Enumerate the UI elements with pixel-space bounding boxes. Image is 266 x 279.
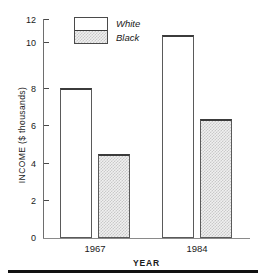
y-tick-label-2: 2 bbox=[14, 196, 36, 206]
bar-1984-black bbox=[200, 119, 232, 238]
legend-swatch-white bbox=[75, 18, 107, 31]
plot-area bbox=[43, 19, 250, 238]
legend-label-white: White bbox=[116, 18, 140, 29]
legend-label-black: Black bbox=[116, 32, 139, 43]
y-tick-label-6: 6 bbox=[14, 121, 36, 131]
x-axis-title: YEAR bbox=[43, 258, 250, 268]
y-tick-label-8: 8 bbox=[14, 84, 36, 94]
x-tick-label-1984: 1984 bbox=[167, 243, 227, 254]
y-tick-label-10: 10 bbox=[14, 38, 36, 48]
y-tick-label-4: 4 bbox=[14, 159, 36, 169]
legend-swatch-black bbox=[75, 31, 107, 44]
y-tick-label-0: 0 bbox=[14, 233, 36, 243]
bottom-rule bbox=[8, 270, 258, 273]
legend-swatch-box bbox=[74, 17, 108, 44]
bar-1967-black bbox=[98, 154, 130, 238]
bar-1984-white bbox=[162, 35, 194, 238]
x-axis-line bbox=[43, 238, 250, 239]
y-axis-title: INCOME ($ thousands) bbox=[17, 55, 27, 215]
bar-chart-figure: INCOME ($ thousands) 12 10 8 6 4 2 0 196… bbox=[0, 0, 266, 279]
y-tick-label-12: 12 bbox=[14, 15, 36, 25]
x-tick-label-1967: 1967 bbox=[65, 243, 125, 254]
bar-1967-white bbox=[60, 88, 92, 238]
